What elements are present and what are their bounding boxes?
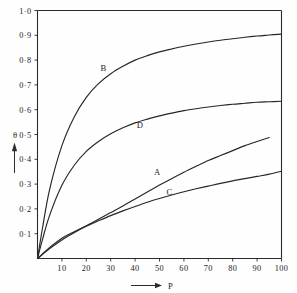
x-tick-label: 70 [204,264,213,273]
x-tick-label: 90 [253,264,262,273]
figure-canvas: 0·10·20·30·40·50·60·70·80·91·01020304050… [0,0,297,293]
y-tick-label: 1·0 [19,7,31,16]
y-tick-label: 0·6 [19,106,31,115]
y-tick-label: 0·4 [19,155,32,164]
y-tick-label: 0·9 [19,31,31,40]
y-tick-label: 0·7 [19,81,31,90]
line-chart: 0·10·20·30·40·50·60·70·80·91·01020304050… [0,0,297,293]
x-tick-label: 30 [106,264,115,273]
x-tick-label: 20 [82,264,91,273]
x-tick-label: 10 [57,264,66,273]
x-axis-arrow-head [155,283,162,288]
x-tick-label: 80 [228,264,237,273]
curve-c [38,171,282,258]
y-tick-label: 0·8 [19,56,31,65]
curve-d [38,101,282,258]
x-tick-label: 40 [131,264,140,273]
x-tick-label: 60 [179,264,188,273]
y-tick-label: 0·2 [19,205,31,214]
y-axis-arrow-head [12,142,17,151]
y-tick-label: 0·3 [19,180,31,189]
y-axis-title: θ [13,130,17,140]
curve-label-a: A [154,167,161,177]
y-tick-label: 0·5 [19,131,31,140]
curve-b [38,34,282,258]
curve-label-b: B [101,63,107,73]
x-tick-label: 50 [155,264,164,273]
x-axis-title: P [168,281,173,291]
x-tick-label: 100 [275,264,289,273]
curve-label-c: C [166,187,172,197]
y-tick-label: 0·1 [19,230,31,239]
curve-a [38,137,270,258]
curve-label-d: D [137,120,143,130]
